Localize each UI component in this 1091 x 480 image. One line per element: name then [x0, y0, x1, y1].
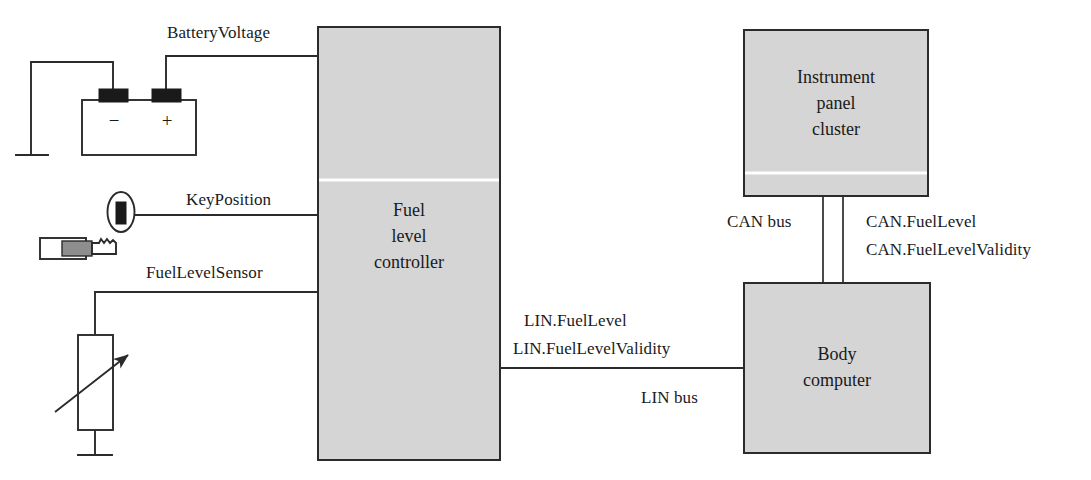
battery-positive-label: +	[156, 110, 178, 132]
ignition-keyway-slot	[116, 202, 126, 224]
battery-voltage-wire	[166, 56, 318, 95]
variable-resistor-body	[78, 335, 113, 430]
key-position-label: KeyPosition	[186, 189, 271, 210]
can-fuel-level-validity-label: CAN.FuelLevelValidity	[866, 239, 1031, 260]
battery-voltage-label: BatteryVoltage	[167, 22, 270, 43]
fuel-level-system-diagram: Fuel level controller Instrument panel c…	[0, 0, 1091, 480]
fuel-level-controller-label: Fuel level controller	[318, 197, 500, 275]
instrument-panel-cluster-label: Instrument panel cluster	[744, 64, 928, 142]
lin-fuel-level-label: LIN.FuelLevel	[524, 310, 627, 331]
battery-positive-terminal	[152, 89, 181, 102]
lin-fuel-level-validity-label: LIN.FuelLevelValidity	[513, 338, 670, 359]
can-fuel-level-label: CAN.FuelLevel	[866, 211, 976, 232]
fuel-level-sensor-wire	[95, 292, 318, 335]
lin-bus-name-label: LIN bus	[641, 387, 698, 408]
battery-negative-label: −	[103, 110, 125, 132]
can-bus-name-label: CAN bus	[727, 211, 791, 232]
fuel-level-sensor-label: FuelLevelSensor	[146, 262, 263, 283]
key-grip-insert	[62, 241, 92, 256]
body-computer-label: Body computer	[744, 341, 930, 393]
battery-body	[82, 100, 196, 155]
battery-negative-terminal	[99, 89, 128, 102]
key-blade	[92, 239, 116, 254]
